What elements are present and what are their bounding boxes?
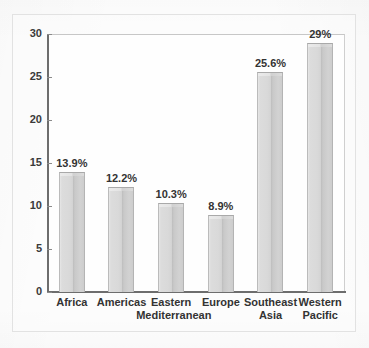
chart-page: 051015202530 13.9%12.2%10.3%8.9%25.6%29%…: [0, 0, 369, 348]
y-axis-tick-label: 15: [18, 157, 42, 168]
bar-slot: 12.2%: [97, 34, 147, 292]
bar-value-label: 13.9%: [56, 157, 87, 169]
y-axis-tick-label: 25: [18, 71, 42, 82]
x-axis-category-label-line1: Western: [299, 296, 342, 308]
bar-slot: 13.9%: [47, 34, 97, 292]
x-axis-category-label: WesternPacific: [285, 296, 355, 322]
y-axis-tick: [47, 292, 52, 293]
x-axis-category-label-line1: Europe: [202, 296, 240, 308]
bar-value-label: 25.6%: [255, 57, 286, 69]
bar-value-label: 12.2%: [106, 172, 137, 184]
bar-slot: 29%: [295, 34, 345, 292]
x-axis-category-labels: AfricaAmericasEasternMediterraneanEurope…: [47, 296, 345, 336]
bar-slot: 8.9%: [196, 34, 246, 292]
bar[interactable]: [307, 43, 333, 292]
bar[interactable]: [108, 187, 134, 292]
bar[interactable]: [158, 203, 184, 292]
bar-value-label: 29%: [309, 28, 331, 40]
bar-value-label: 8.9%: [208, 200, 233, 212]
bar[interactable]: [257, 72, 283, 292]
bar-slot: 10.3%: [146, 34, 196, 292]
x-axis-category-label-line1: Africa: [56, 296, 87, 308]
y-axis-tick-label: 30: [18, 28, 42, 39]
bar-slot: 25.6%: [246, 34, 296, 292]
bar-value-label: 10.3%: [156, 188, 187, 200]
bar[interactable]: [59, 172, 85, 292]
x-axis-category-label-line2: Pacific: [285, 309, 355, 322]
bars-layer: 13.9%12.2%10.3%8.9%25.6%29%: [47, 34, 345, 292]
y-axis-tick-label: 10: [18, 200, 42, 211]
y-axis-tick-label: 5: [18, 243, 42, 254]
y-axis-tick-label: 20: [18, 114, 42, 125]
bar[interactable]: [208, 215, 234, 292]
x-axis-category-label-line2: Mediterranean: [136, 309, 206, 322]
